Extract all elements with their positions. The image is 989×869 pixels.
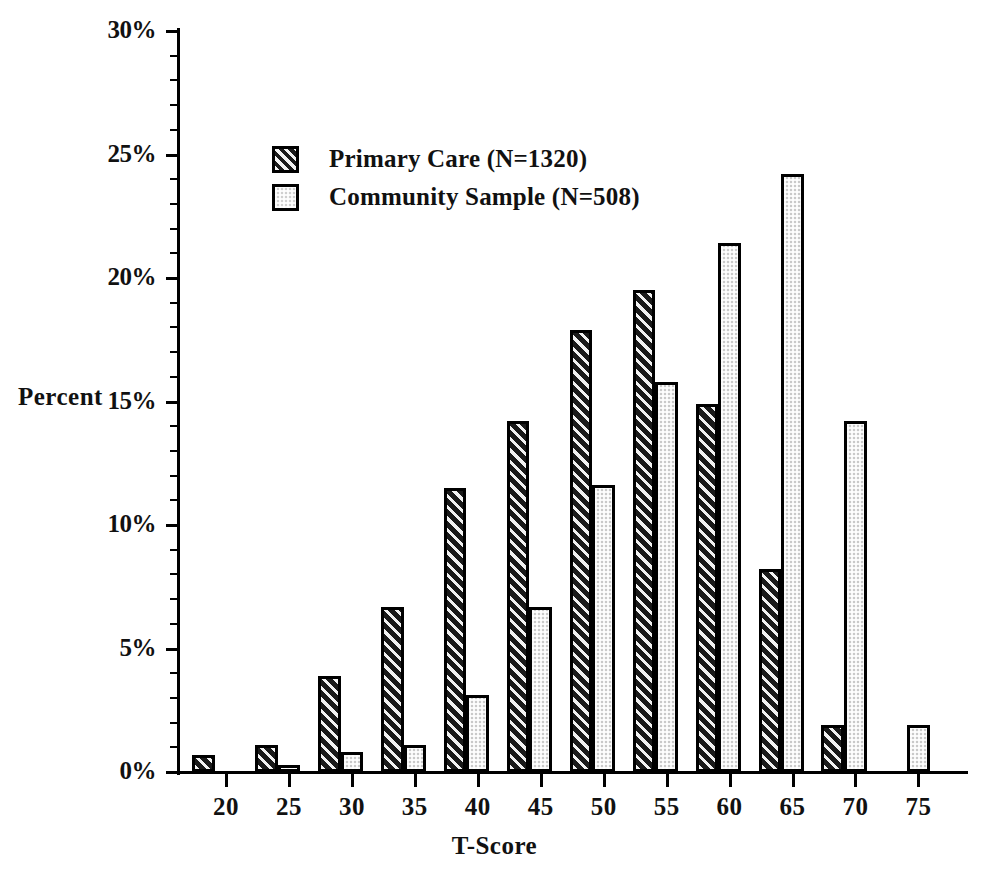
bar-community-sample-35 — [404, 745, 427, 772]
bar-community-sample-25 — [278, 765, 301, 772]
y-tick-label: 25% — [0, 140, 156, 168]
x-tick — [351, 774, 354, 787]
bar-community-sample-40 — [466, 695, 489, 772]
x-tick — [603, 774, 606, 787]
bar-primary-care-70 — [821, 725, 844, 772]
bar-community-sample-75 — [907, 725, 930, 772]
bar-primary-care-50 — [570, 330, 593, 772]
x-tick — [917, 774, 920, 787]
bar-community-sample-60 — [718, 243, 741, 772]
x-tick-label: 40 — [465, 793, 491, 821]
chart-legend: Primary Care (N=1320)Community Sample (N… — [272, 140, 640, 216]
y-tick-label: 30% — [0, 16, 156, 44]
y-tick-label: 20% — [0, 263, 156, 291]
y-axis-title: Percent — [18, 383, 103, 411]
x-tick — [666, 774, 669, 787]
bar-primary-care-35 — [381, 607, 404, 772]
bar-community-sample-55 — [655, 382, 678, 772]
x-tick — [288, 774, 291, 787]
legend-item: Community Sample (N=508) — [272, 178, 640, 216]
x-tick — [854, 774, 857, 787]
bar-chart: 0%5%10%15%20%25%30% 20253035404550556065… — [0, 0, 989, 869]
y-tick-label: 5% — [0, 634, 156, 662]
bar-primary-care-55 — [633, 290, 656, 772]
bar-community-sample-30 — [341, 752, 364, 772]
y-tick-label: 10% — [0, 510, 156, 538]
x-tick — [540, 774, 543, 787]
x-tick-label: 70 — [842, 793, 868, 821]
legend-item: Primary Care (N=1320) — [272, 140, 640, 178]
legend-swatch-primary — [272, 146, 299, 173]
x-tick — [729, 774, 732, 787]
bar-primary-care-60 — [696, 404, 719, 772]
x-tick-label: 30 — [339, 793, 365, 821]
legend-swatch-community — [272, 184, 299, 211]
bar-primary-care-65 — [759, 569, 782, 772]
x-tick — [477, 774, 480, 787]
bar-primary-care-25 — [255, 745, 278, 772]
x-tick-label: 35 — [402, 793, 428, 821]
bar-primary-care-45 — [507, 421, 530, 772]
x-tick-label: 25 — [276, 793, 302, 821]
bar-community-sample-70 — [844, 421, 867, 772]
x-tick-label: 75 — [905, 793, 931, 821]
y-tick-label: 0% — [0, 757, 156, 785]
legend-label: Primary Care (N=1320) — [329, 145, 587, 173]
x-tick — [414, 774, 417, 787]
bar-primary-care-40 — [444, 488, 467, 772]
x-tick-label: 55 — [654, 793, 680, 821]
bar-primary-care-20 — [192, 755, 215, 772]
x-tick — [792, 774, 795, 787]
bar-primary-care-30 — [318, 676, 341, 772]
x-tick-label: 65 — [780, 793, 806, 821]
bar-community-sample-65 — [781, 174, 804, 772]
x-tick-label: 20 — [213, 793, 239, 821]
x-tick-label: 45 — [528, 793, 554, 821]
x-tick — [225, 774, 228, 787]
bar-community-sample-45 — [529, 607, 552, 772]
x-tick-label: 50 — [591, 793, 617, 821]
bar-community-sample-50 — [592, 485, 615, 772]
legend-label: Community Sample (N=508) — [329, 183, 640, 211]
x-tick-label: 60 — [717, 793, 743, 821]
x-axis-title: T-Score — [0, 832, 989, 860]
